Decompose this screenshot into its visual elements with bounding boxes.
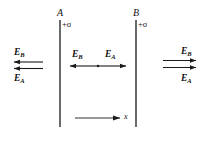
- plate-a-label: A: [57, 8, 63, 18]
- plate-a-charge-label: +σ: [62, 20, 71, 29]
- physics-diagram-two-charged-plates: A +σ B +σ EB EA EB EA EB EA x: [0, 0, 208, 142]
- field-label-right-eb: EB: [181, 47, 192, 57]
- field-subscript: A: [111, 53, 115, 60]
- field-label-left-ea: EA: [14, 74, 25, 84]
- field-subscript: A: [187, 77, 191, 84]
- x-axis-label: x: [124, 113, 128, 121]
- diagram-canvas: [0, 0, 208, 142]
- plate-b-label: B: [133, 8, 139, 18]
- field-label-middle-ea: EA: [105, 50, 116, 60]
- field-label-left-eb: EB: [14, 48, 25, 58]
- field-subscript: B: [20, 51, 24, 58]
- middle-region-origin-dot: [97, 65, 99, 67]
- field-subscript: B: [78, 53, 82, 60]
- field-label-right-ea: EA: [181, 74, 192, 84]
- field-label-middle-eb: EB: [72, 50, 83, 60]
- field-subscript: A: [20, 77, 24, 84]
- field-subscript: B: [187, 50, 191, 57]
- plate-b-charge-label: +σ: [138, 20, 147, 29]
